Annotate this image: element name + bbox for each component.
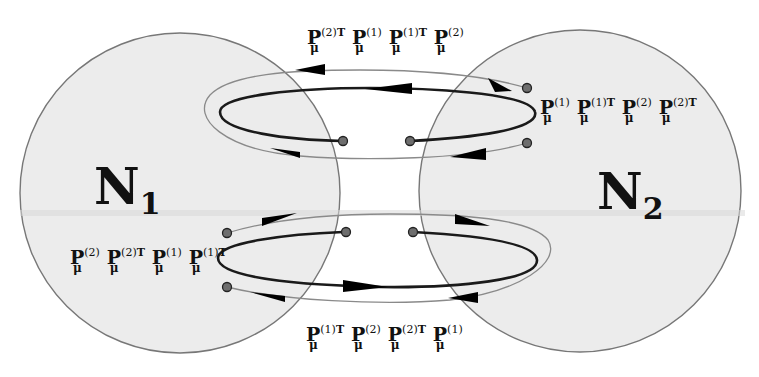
- arrow-icon: [365, 83, 412, 94]
- endpoint-dot: [406, 137, 415, 146]
- node-index: 1: [140, 186, 161, 221]
- endpoint-dot: [342, 228, 351, 237]
- node-letter: N: [94, 157, 140, 216]
- endpoint-dot: [523, 84, 532, 93]
- term: P(1)μ: [540, 98, 570, 117]
- node-letter: N: [597, 162, 643, 221]
- term: P(1)Tμ: [306, 325, 344, 344]
- node-label-n1: N1: [94, 162, 161, 212]
- term: P(1)μ: [152, 248, 182, 267]
- node-circle-n2: [419, 30, 741, 352]
- path-label-bottom: P(1)Tμ P(2)μ P(2)Tμ P(1)μ: [306, 325, 464, 344]
- node-label-n2: N2: [597, 167, 664, 217]
- term: P(2)μ: [70, 248, 100, 267]
- term: P(2)Tμ: [307, 28, 345, 47]
- path-label-right: P(1)μ P(1)Tμ P(2)μ P(2)Tμ: [540, 98, 698, 117]
- term: P(2)μ: [434, 28, 464, 47]
- term: P(1)Tμ: [577, 98, 615, 117]
- term: P(1)Tμ: [389, 28, 427, 47]
- arrow-icon: [295, 64, 325, 75]
- endpoint-dot: [339, 137, 348, 146]
- path-label-left: P(2)μ P(2)Tμ P(1)μ P(1)Tμ: [70, 248, 228, 267]
- term: P(2)Tμ: [107, 248, 145, 267]
- node-circle-n1: [20, 33, 340, 353]
- path-label-top: P(2)Tμ P(1)μ P(1)Tμ P(2)μ: [307, 28, 465, 47]
- endpoint-dot: [523, 139, 532, 148]
- endpoint-dot: [223, 229, 232, 238]
- term: P(2)Tμ: [659, 98, 697, 117]
- term: P(1)μ: [352, 28, 382, 47]
- term: P(2)μ: [622, 98, 652, 117]
- term: P(2)Tμ: [388, 325, 426, 344]
- term: P(1)Tμ: [189, 248, 227, 267]
- diagram-canvas: N1 N2 P(2)Tμ P(1)μ P(1)Tμ P(2)μ P(1)μ P(…: [0, 0, 759, 377]
- arrow-icon: [343, 280, 388, 292]
- endpoint-dot: [223, 283, 232, 292]
- endpoint-dot: [409, 228, 418, 237]
- term: P(2)μ: [351, 325, 381, 344]
- term: P(1)μ: [433, 325, 463, 344]
- node-index: 2: [643, 191, 664, 226]
